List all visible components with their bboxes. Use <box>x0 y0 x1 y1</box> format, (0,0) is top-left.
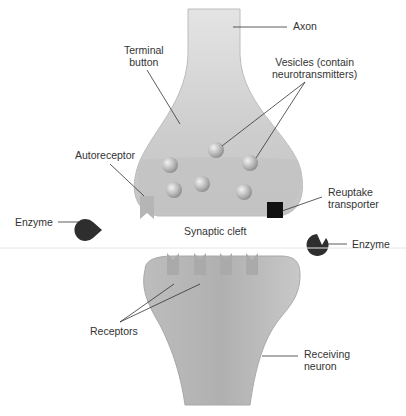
label-terminal-button: Terminal button <box>124 44 164 68</box>
autoreceptor-shape <box>140 196 154 219</box>
vesicle <box>208 142 224 158</box>
enzyme-right-icon <box>307 234 329 256</box>
label-enzyme-right: Enzyme <box>352 238 390 250</box>
label-synaptic-cleft: Synaptic cleft <box>184 225 246 237</box>
label-receptors: Receptors <box>90 325 138 337</box>
reuptake-transporter-shape <box>267 202 283 218</box>
vesicle <box>242 155 258 171</box>
label-reuptake-transporter: Reuptake transporter <box>328 186 379 210</box>
vesicle <box>166 182 182 198</box>
vesicle <box>236 184 252 200</box>
label-vesicles: Vesicles (contain neurotransmitters) <box>272 56 357 80</box>
label-axon: Axon <box>293 20 317 32</box>
label-autoreceptor: Autoreceptor <box>75 149 135 161</box>
label-enzyme-left: Enzyme <box>15 216 53 228</box>
receiving-neuron <box>144 256 300 405</box>
vesicle <box>162 157 178 173</box>
label-receiving-neuron: Receiving neuron <box>304 348 350 372</box>
vesicle <box>194 176 210 192</box>
